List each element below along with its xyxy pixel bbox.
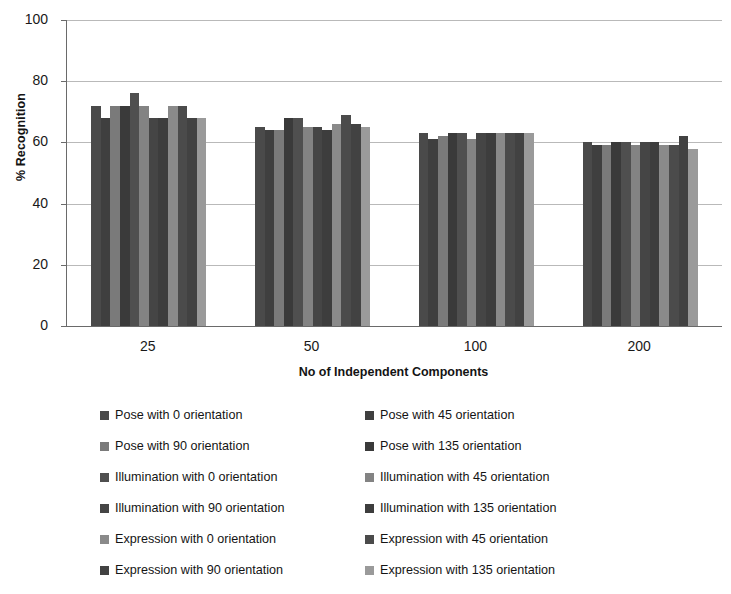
- plot-area: 020406080100: [66, 20, 722, 327]
- bar: [448, 133, 458, 326]
- bar-group: [255, 20, 370, 326]
- legend-label: Pose with 135 orientation: [380, 440, 521, 453]
- bar: [592, 145, 602, 326]
- bar-group: [91, 20, 206, 326]
- bar: [341, 115, 351, 326]
- legend-item[interactable]: Expression with 0 orientation: [100, 524, 355, 555]
- legend-item[interactable]: Illumination with 135 orientation: [365, 493, 620, 524]
- bar: [130, 93, 140, 326]
- legend-swatch-icon: [100, 504, 109, 513]
- legend-swatch-icon: [365, 442, 374, 451]
- bar: [197, 118, 207, 326]
- bar: [611, 142, 621, 326]
- bar: [505, 133, 515, 326]
- bar: [255, 127, 265, 326]
- legend-swatch-icon: [365, 535, 374, 544]
- bar: [467, 139, 477, 326]
- y-tick-mark: [61, 142, 67, 143]
- legend-swatch-icon: [100, 473, 109, 482]
- bar-group: [583, 20, 698, 326]
- bar: [139, 106, 149, 326]
- legend-swatch-icon: [365, 504, 374, 513]
- y-tick-mark: [61, 81, 67, 82]
- bar: [168, 106, 178, 326]
- bar: [313, 127, 323, 326]
- legend-label: Pose with 0 orientation: [115, 409, 242, 422]
- bar: [640, 142, 650, 326]
- bar: [332, 124, 342, 326]
- legend-swatch-icon: [100, 566, 109, 575]
- bar: [120, 106, 130, 326]
- legend-swatch-icon: [365, 473, 374, 482]
- bar: [602, 145, 612, 326]
- y-tick-label: 0: [4, 317, 48, 333]
- legend-item[interactable]: Pose with 0 orientation: [100, 400, 355, 431]
- legend-label: Illumination with 0 orientation: [115, 471, 277, 484]
- x-tick-label: 200: [579, 338, 699, 354]
- y-tick-label: 40: [4, 195, 48, 211]
- bar-group: [419, 20, 534, 326]
- legend-label: Expression with 135 orientation: [380, 564, 555, 577]
- legend-item[interactable]: Illumination with 45 orientation: [365, 462, 620, 493]
- legend-label: Pose with 45 orientation: [380, 409, 514, 422]
- legend-label: Illumination with 90 orientation: [115, 502, 284, 515]
- x-tick-label: 100: [415, 338, 535, 354]
- bar: [428, 139, 438, 326]
- legend-item[interactable]: Expression with 90 orientation: [100, 555, 355, 586]
- bar: [110, 106, 120, 326]
- bar: [486, 133, 496, 326]
- legend-item[interactable]: Pose with 135 orientation: [365, 431, 620, 462]
- bar: [187, 118, 197, 326]
- bar: [274, 130, 284, 326]
- bar: [669, 145, 679, 326]
- bar: [583, 142, 593, 326]
- bar: [361, 127, 371, 326]
- bar: [293, 118, 303, 326]
- legend-item[interactable]: Expression with 45 orientation: [365, 524, 620, 555]
- legend-label: Expression with 45 orientation: [380, 533, 548, 546]
- bar: [284, 118, 294, 326]
- legend-item[interactable]: Expression with 135 orientation: [365, 555, 620, 586]
- bar: [303, 127, 313, 326]
- legend-label: Expression with 0 orientation: [115, 533, 276, 546]
- y-tick-label: 100: [4, 11, 48, 27]
- y-tick-mark: [61, 20, 67, 21]
- bar: [621, 142, 631, 326]
- bar: [91, 106, 101, 326]
- bar: [650, 142, 660, 326]
- chart-legend: Pose with 0 orientationPose with 45 orie…: [100, 400, 670, 586]
- bar: [265, 130, 275, 326]
- bar-chart: % Recognition 020406080100 2550100200 No…: [0, 0, 731, 594]
- bar: [101, 118, 111, 326]
- bar: [158, 118, 168, 326]
- bar: [679, 136, 689, 326]
- legend-label: Illumination with 135 orientation: [380, 502, 556, 515]
- bar: [515, 133, 525, 326]
- legend-label: Illumination with 45 orientation: [380, 471, 549, 484]
- bar: [496, 133, 506, 326]
- legend-label: Expression with 90 orientation: [115, 564, 283, 577]
- legend-swatch-icon: [100, 411, 109, 420]
- legend-item[interactable]: Illumination with 90 orientation: [100, 493, 355, 524]
- y-tick-label: 60: [4, 133, 48, 149]
- bar: [351, 124, 361, 326]
- legend-label: Pose with 90 orientation: [115, 440, 249, 453]
- bar: [524, 133, 534, 326]
- legend-item[interactable]: Pose with 45 orientation: [365, 400, 620, 431]
- legend-swatch-icon: [365, 411, 374, 420]
- bar: [476, 133, 486, 326]
- legend-item[interactable]: Pose with 90 orientation: [100, 431, 355, 462]
- legend-item[interactable]: Illumination with 0 orientation: [100, 462, 355, 493]
- bar: [457, 133, 467, 326]
- legend-swatch-icon: [100, 442, 109, 451]
- bar: [419, 133, 429, 326]
- bar: [688, 149, 698, 326]
- y-tick-mark: [61, 204, 67, 205]
- bar: [438, 136, 448, 326]
- x-axis-title: No of Independent Components: [66, 365, 721, 379]
- bar: [149, 118, 159, 326]
- bar: [178, 106, 188, 326]
- legend-swatch-icon: [100, 535, 109, 544]
- legend-swatch-icon: [365, 566, 374, 575]
- x-tick-label: 25: [88, 338, 208, 354]
